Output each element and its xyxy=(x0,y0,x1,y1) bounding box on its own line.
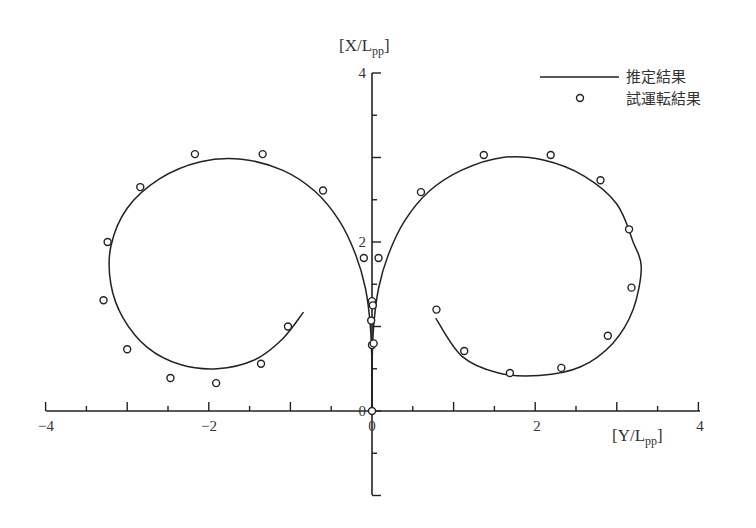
trial-data-point xyxy=(597,177,604,184)
trial-data-point xyxy=(417,189,424,196)
trajectory-curve xyxy=(109,159,372,411)
trial-data-point xyxy=(137,184,144,191)
x-tick-label: 0 xyxy=(368,418,376,434)
trial-data-point xyxy=(104,239,111,246)
trial-data-point xyxy=(320,187,327,194)
trial-data-point xyxy=(480,151,487,158)
trial-data-point xyxy=(167,375,174,382)
y-tick-label: 2 xyxy=(359,234,367,250)
sea-trial-markers xyxy=(100,151,635,415)
trial-data-point xyxy=(369,302,376,309)
trial-data-point xyxy=(368,317,375,324)
x-axis-title: [Y/Lpp] xyxy=(612,426,663,448)
x-tick-label: 2 xyxy=(533,418,541,434)
trial-data-point xyxy=(628,284,635,291)
legend-label-estimated: 推定結果 xyxy=(626,68,686,86)
trial-data-point xyxy=(558,364,565,371)
trial-data-point xyxy=(191,151,198,158)
trial-data-point xyxy=(258,360,265,367)
trial-data-point xyxy=(259,151,266,158)
trial-data-point xyxy=(433,306,440,313)
x-tick-label: −2 xyxy=(201,418,217,434)
trial-data-point xyxy=(100,297,107,304)
trial-data-point xyxy=(124,346,131,353)
legend-marker-swatch xyxy=(577,95,584,102)
trial-data-point xyxy=(461,348,468,355)
trial-data-point xyxy=(370,340,377,347)
trial-data-point xyxy=(547,151,554,158)
trial-data-point xyxy=(284,323,291,330)
trial-data-point xyxy=(213,380,220,387)
trial-data-point xyxy=(360,255,367,262)
x-tick-label: −4 xyxy=(38,418,54,434)
legend-label-trial: 試運転結果 xyxy=(626,90,701,108)
trial-data-point xyxy=(369,408,376,415)
x-tick-label: 4 xyxy=(696,418,704,434)
trajectory-chart: −4 −2 0 2 4 0 2 4 [X/Lpp] [Y/Lpp] 推定結果 試… xyxy=(0,0,756,528)
y-axis-title: [X/Lpp] xyxy=(339,36,390,58)
trial-data-point xyxy=(506,369,513,376)
y-tick-label: 0 xyxy=(359,403,367,419)
trial-data-point xyxy=(626,226,633,233)
trial-data-point xyxy=(375,255,382,262)
y-tick-label: 4 xyxy=(359,65,367,81)
legend: 推定結果 試運転結果 xyxy=(540,68,701,108)
trial-data-point xyxy=(604,332,611,339)
